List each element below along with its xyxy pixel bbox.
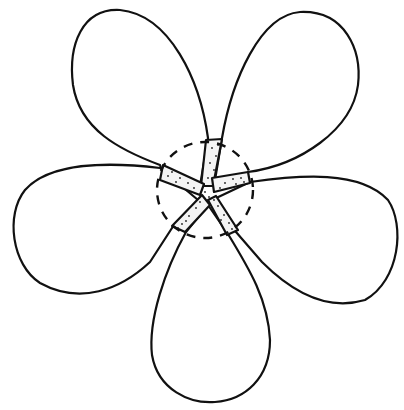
flower-figure <box>0 0 404 410</box>
petal-upper-left <box>72 10 208 186</box>
petal-upper-right <box>214 12 359 186</box>
